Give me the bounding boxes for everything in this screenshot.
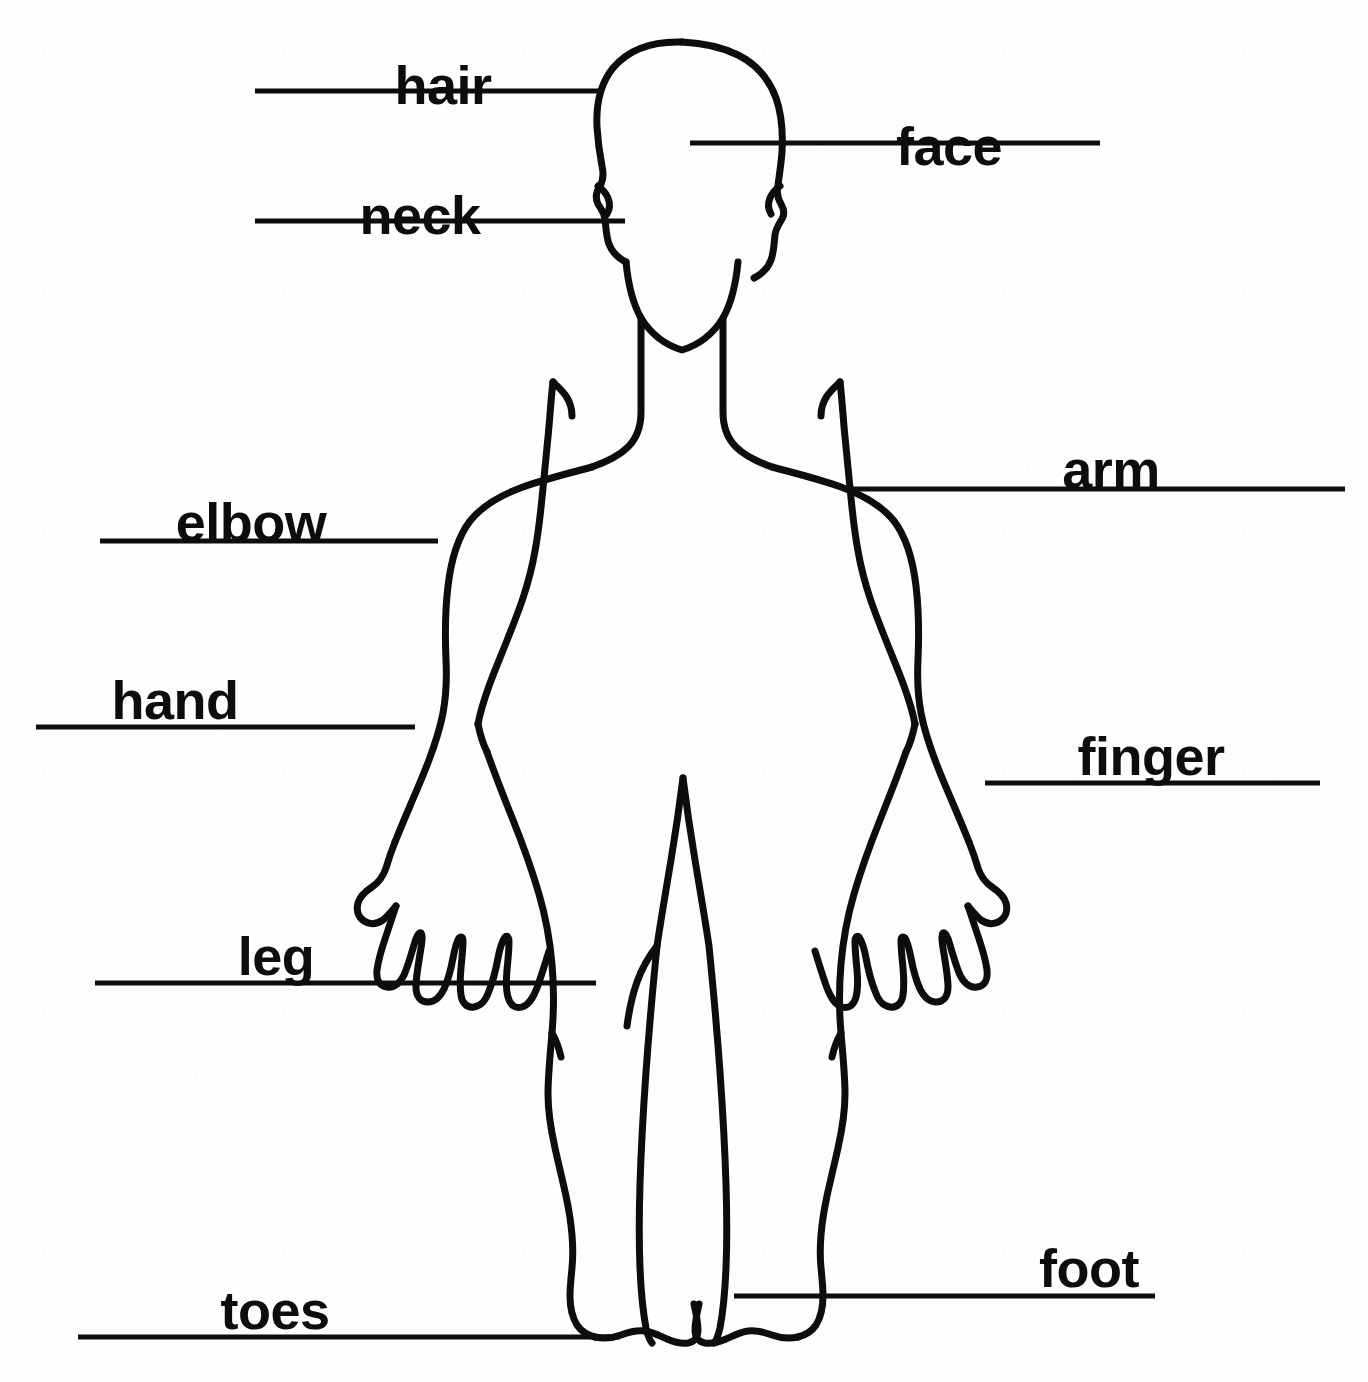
label-hair[interactable]: hair [394,58,491,112]
label-face[interactable]: face [896,119,1002,173]
forearm-left-outer-outline [357,842,396,924]
forearm-right-outer-outline [968,842,1007,924]
label-elbow[interactable]: elbow [176,495,327,549]
arm-right-inner-outline [840,382,915,724]
neck-right-outline [723,318,772,467]
label-leg[interactable]: leg [238,929,315,983]
head-right-outline [682,42,784,278]
label-finger[interactable]: finger [1077,729,1224,783]
shoulder-arm-right-outline [772,467,969,842]
shoulder-arm-left-outline [395,467,592,842]
armpit-left-stroke [553,382,572,416]
label-toes[interactable]: toes [220,1283,329,1337]
label-neck[interactable]: neck [359,188,480,242]
torso-left-outline [478,724,487,752]
arm-left-inner-outline [478,382,553,724]
label-arm[interactable]: arm [1062,442,1160,496]
foot-right-outline [695,1304,798,1343]
head-hair-outline [596,42,682,262]
inner-leg-left-outline [639,778,683,1343]
inner-leg-right-outline [683,778,727,1343]
leg-right-outer-outline [798,752,906,1337]
label-hand[interactable]: hand [112,673,239,727]
neck-left-outline [592,318,641,467]
diagram-canvas: hair face neck arm elbow hand finger leg… [0,0,1368,1382]
hand-left-fingers [377,906,549,1008]
torso-right-outline [906,724,915,752]
leg-left-outer-outline [487,752,595,1337]
label-foot[interactable]: foot [1039,1241,1139,1295]
armpit-right-stroke [821,382,840,416]
